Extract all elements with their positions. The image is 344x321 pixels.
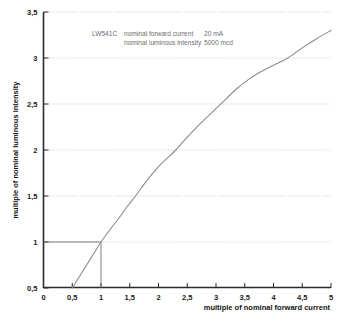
annotation-line1-value: 20 mA xyxy=(204,30,224,37)
x-tick-label: 4,5 xyxy=(297,293,307,302)
y-tick-label: 3,5 xyxy=(27,8,37,17)
chart-figure: 00,511,522,533,544,55 0,511,522,533,5 mu… xyxy=(0,0,344,321)
y-tick-label: 3 xyxy=(33,54,37,63)
y-tick-label: 2,5 xyxy=(27,100,37,109)
chart-background xyxy=(0,0,344,321)
x-tick-label: 2,5 xyxy=(182,293,192,302)
x-tick-label: 0 xyxy=(41,293,45,302)
x-tick-label: 0,5 xyxy=(67,293,77,302)
x-tick-label: 5 xyxy=(329,293,333,302)
x-axis-title: multiple of nominal forward current xyxy=(204,303,331,312)
annotation-line2-value: 5000 mcd xyxy=(204,39,233,46)
y-tick-label: 1,5 xyxy=(27,192,37,201)
y-axis-title: multiple of nominal luminous intensity xyxy=(11,81,20,219)
x-tick-label: 2 xyxy=(156,293,160,302)
x-tick-label: 1,5 xyxy=(125,293,135,302)
x-tick-label: 1 xyxy=(99,293,103,302)
y-tick-label: 1 xyxy=(33,238,37,247)
x-tick-label: 3 xyxy=(214,293,218,302)
y-tick-label: 2 xyxy=(33,146,37,155)
y-tick-label: 0,5 xyxy=(27,284,37,293)
x-tick-label: 3,5 xyxy=(240,293,250,302)
annotation-line1-label: nominal forward current xyxy=(124,30,193,37)
chart-svg: 00,511,522,533,544,55 0,511,522,533,5 mu… xyxy=(0,0,344,321)
annotation-part-number: LW541C xyxy=(92,30,117,37)
annotation-line2-label: nominal luminous intensity xyxy=(124,39,202,47)
